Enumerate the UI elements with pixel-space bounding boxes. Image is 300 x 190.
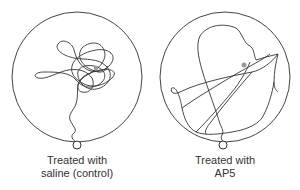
caption-saline-line2: saline (control): [22, 167, 132, 180]
pool-ap5: [160, 12, 290, 149]
swim-path-ap5: [171, 25, 278, 143]
platform-marker-left: [94, 66, 98, 70]
pool-outline-left: [12, 12, 142, 142]
pool-outline-right: [160, 12, 290, 142]
caption-ap5-line1: Treated with: [170, 154, 280, 167]
platform-marker-right: [242, 63, 247, 68]
caption-saline-line1: Treated with: [22, 154, 132, 167]
caption-saline: Treated with saline (control): [22, 154, 132, 180]
start-marker-left: [73, 141, 81, 149]
start-marker-right: [219, 141, 227, 149]
swim-path-saline: [35, 41, 114, 143]
caption-ap5-line2: AP5: [170, 167, 280, 180]
caption-ap5: Treated with AP5: [170, 154, 280, 180]
pool-saline: [12, 12, 142, 149]
